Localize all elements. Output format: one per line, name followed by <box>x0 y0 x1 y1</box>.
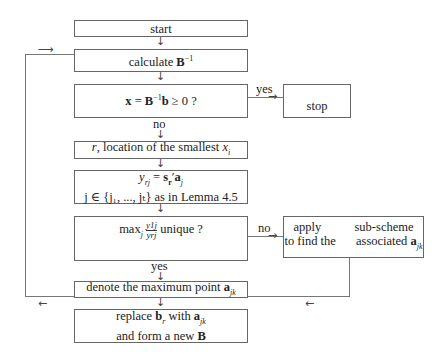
ratio-fraction: y1jyrj <box>146 221 157 240</box>
yrj-formula: yrj = sr′aj <box>139 170 183 190</box>
calculate-binverse-node: calculate B−1 <box>74 49 248 72</box>
replace-line2: and form a new B <box>116 329 206 343</box>
max-unique-label: maxj y1jyrj unique ? <box>119 221 203 242</box>
replace-node: replace br with ajk and form a new B <box>74 309 248 343</box>
arrow-down-calc-test: ↓ <box>156 72 165 82</box>
yrj-node: yrj = sr′aj j ∈ {j₁, ..., jₜ} as in Lemm… <box>74 170 248 204</box>
arrow-left-subscheme-return: ← <box>305 299 314 309</box>
arrow-left-loop-out: ← <box>38 299 47 309</box>
arrow-right-loop-in: ⟶ <box>38 45 54 55</box>
arrow-down-smallest-yrj: ↓ <box>156 159 165 169</box>
connector-test-stop <box>248 97 283 98</box>
loop-left-segment <box>25 54 26 297</box>
calculate-binverse-label: calculate B−1 <box>129 52 193 69</box>
connector-subscheme-to-replace <box>248 296 350 297</box>
arrow-down-test-smallest: ↓ <box>156 130 165 140</box>
connector-max-subscheme <box>248 236 283 237</box>
arrow-down-yrj-max: ↓ <box>156 204 165 214</box>
start-label: start <box>150 22 172 36</box>
arrow-down-max-denote: ↓ <box>156 272 165 282</box>
max-unique-node: maxj y1jyrj unique ? <box>74 216 248 261</box>
stop-label: stop <box>307 99 328 113</box>
stop-node: stop <box>283 84 351 118</box>
arrow-right-subscheme: → <box>268 231 277 241</box>
connector-subscheme-down <box>349 258 350 296</box>
subscheme-node: apply sub-scheme to find the associated … <box>283 216 424 258</box>
subscheme-line1: apply sub-scheme <box>294 220 414 234</box>
test-x-label: x = B−1b ≥ 0 ? <box>125 91 196 108</box>
loop-bottom-segment <box>25 296 74 297</box>
subscheme-line2: to find the associated ajk <box>285 234 423 254</box>
arrow-down-denote-replace: ↓ <box>156 298 165 308</box>
arrow-down-start-calc: ↓ <box>156 37 165 47</box>
test-x-nonnegative-node: x = B−1b ≥ 0 ? <box>74 84 248 118</box>
replace-line1: replace br with ajk <box>116 309 206 329</box>
arrow-right-stop: → <box>268 92 277 102</box>
